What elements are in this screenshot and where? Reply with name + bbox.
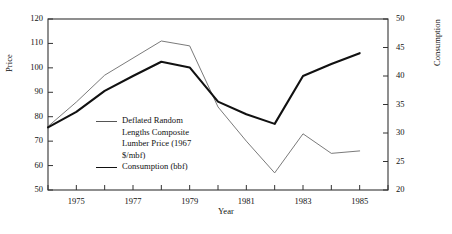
legend-label: $/mbf) bbox=[122, 150, 145, 160]
x-tick-label: 1985 bbox=[340, 196, 380, 206]
legend-row: Lumber Price (1967 bbox=[96, 139, 212, 151]
legend-label: Deflated Random bbox=[122, 115, 183, 125]
x-axis-tick-labels: 197519771979198119831985 bbox=[0, 0, 452, 234]
x-tick-label: 1979 bbox=[170, 196, 210, 206]
legend-label: Lumber Price (1967 bbox=[122, 138, 191, 148]
lumber-price-consumption-chart: 5060708090100110120 20253035404550 19751… bbox=[0, 0, 452, 234]
x-axis-title-year: Year bbox=[0, 206, 452, 216]
legend-label: Consumption (bbf) bbox=[122, 161, 188, 171]
legend-label: Lengths Composite bbox=[122, 127, 189, 137]
x-tick-label: 1977 bbox=[113, 196, 153, 206]
legend-row: Consumption (bbf) bbox=[96, 162, 212, 174]
x-tick-label: 1981 bbox=[226, 196, 266, 206]
y2-axis-title-consumption: Consumption bbox=[432, 19, 442, 66]
y-axis-title-price: Price bbox=[4, 54, 14, 72]
chart-legend: Deflated RandomLengths CompositeLumber P… bbox=[96, 116, 212, 174]
legend-swatch-thin bbox=[96, 121, 117, 122]
x-tick-label: 1983 bbox=[283, 196, 323, 206]
x-tick-label: 1975 bbox=[56, 196, 96, 206]
legend-swatch-thick bbox=[96, 167, 117, 168]
